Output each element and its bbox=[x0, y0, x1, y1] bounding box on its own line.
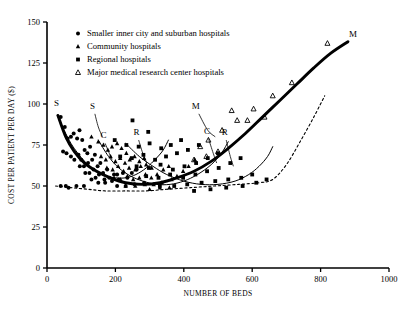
data-point-filled-triangle bbox=[147, 187, 151, 191]
data-point-filled-circle bbox=[92, 168, 96, 172]
data-point-filled-circle bbox=[90, 158, 94, 162]
data-point-filled-triangle bbox=[99, 154, 103, 158]
data-point-filled-square bbox=[200, 181, 204, 185]
data-point-filled-triangle bbox=[127, 166, 131, 170]
curve-label-m-4: M bbox=[192, 101, 200, 111]
data-point-filled-square bbox=[135, 164, 139, 168]
x-tick-label: 200 bbox=[109, 274, 122, 284]
data-point-filled-triangle bbox=[113, 159, 117, 163]
legend-label-0: Smaller inner city and suburban hospital… bbox=[87, 28, 230, 38]
data-point-filled-square bbox=[130, 156, 134, 160]
data-point-filled-circle bbox=[76, 153, 80, 157]
data-point-open-triangle bbox=[229, 108, 234, 113]
data-point-filled-circle bbox=[101, 171, 105, 175]
curve-label-c-5: C bbox=[204, 126, 210, 136]
data-point-filled-circle bbox=[110, 179, 114, 183]
data-point-open-triangle bbox=[270, 93, 275, 98]
data-point-filled-square bbox=[186, 148, 190, 152]
data-point-open-triangle bbox=[235, 118, 240, 123]
legend-marker-filled-square bbox=[76, 58, 80, 62]
data-point-filled-square bbox=[192, 189, 196, 193]
data-point-filled-circle bbox=[89, 177, 93, 181]
curve-label-c-2: C bbox=[100, 130, 106, 140]
data-point-filled-triangle bbox=[186, 164, 190, 168]
x-tick-label: 1000 bbox=[381, 274, 398, 284]
data-point-filled-triangle bbox=[125, 174, 129, 178]
data-point-filled-square bbox=[164, 155, 168, 159]
data-point-filled-square bbox=[254, 181, 258, 185]
data-point-filled-square bbox=[239, 176, 243, 180]
data-point-filled-square bbox=[224, 186, 228, 190]
data-point-filled-triangle bbox=[167, 164, 171, 168]
data-point-filled-triangle bbox=[167, 185, 171, 189]
data-point-filled-circle bbox=[115, 173, 119, 177]
legend-label-3: Major medical research center hospitals bbox=[87, 67, 225, 77]
y-tick-label: 0 bbox=[36, 263, 40, 273]
data-point-filled-square bbox=[169, 143, 173, 147]
data-point-filled-circle bbox=[79, 158, 83, 162]
data-point-filled-circle bbox=[103, 181, 107, 185]
x-tick-label: 400 bbox=[177, 274, 190, 284]
data-point-filled-square bbox=[194, 173, 198, 177]
y-tick-label: 75 bbox=[32, 140, 41, 150]
legend-marker-open-triangle bbox=[76, 70, 81, 75]
legend-marker-filled-triangle bbox=[76, 44, 80, 48]
data-point-filled-square bbox=[159, 146, 163, 150]
data-point-filled-square bbox=[159, 163, 163, 167]
data-point-filled-square bbox=[158, 184, 162, 188]
data-point-filled-triangle bbox=[105, 166, 109, 170]
data-point-filled-square bbox=[181, 176, 185, 180]
data-point-filled-circle bbox=[69, 154, 73, 158]
data-point-filled-square bbox=[153, 158, 157, 162]
data-point-filled-triangle bbox=[123, 161, 127, 165]
hospital-cost-scatter-chart: 025507510012515002004006008001000NUMBER … bbox=[0, 0, 402, 309]
x-axis-title: NUMBER OF BEDS bbox=[184, 289, 253, 298]
data-point-filled-square bbox=[175, 151, 179, 155]
data-point-filled-triangle bbox=[104, 157, 108, 161]
data-point-filled-circle bbox=[59, 184, 63, 188]
data-point-filled-circle bbox=[96, 164, 100, 168]
data-point-filled-square bbox=[213, 179, 217, 183]
data-point-filled-square bbox=[241, 184, 245, 188]
data-point-filled-square bbox=[179, 138, 183, 142]
data-point-filled-circle bbox=[61, 150, 65, 154]
data-point-filled-triangle bbox=[110, 144, 114, 148]
data-point-filled-triangle bbox=[149, 175, 153, 179]
data-point-filled-square bbox=[148, 141, 152, 145]
data-point-filled-square bbox=[157, 176, 161, 180]
data-point-filled-square bbox=[209, 187, 213, 191]
curve-label-r-6: R bbox=[222, 127, 228, 137]
data-point-filled-triangle bbox=[181, 169, 185, 173]
data-point-open-triangle bbox=[289, 80, 294, 85]
data-point-filled-circle bbox=[78, 164, 82, 168]
data-point-filled-square bbox=[146, 130, 150, 134]
data-point-filled-circle bbox=[88, 145, 92, 149]
data-point-filled-square bbox=[239, 156, 243, 160]
y-tick-label: 125 bbox=[27, 58, 40, 68]
y-tick-label: 25 bbox=[32, 222, 41, 232]
legend-marker-filled-circle bbox=[76, 32, 80, 36]
data-point-filled-triangle bbox=[124, 151, 128, 155]
x-tick-label: 600 bbox=[246, 274, 259, 284]
y-tick-label: 50 bbox=[32, 181, 41, 191]
data-point-filled-square bbox=[171, 168, 175, 172]
data-point-filled-triangle bbox=[161, 167, 165, 171]
curve-r bbox=[126, 143, 273, 184]
data-point-filled-circle bbox=[115, 184, 119, 188]
curve-label-s-1: S bbox=[90, 101, 95, 111]
data-point-filled-circle bbox=[87, 171, 91, 175]
data-point-filled-square bbox=[183, 164, 187, 168]
data-point-open-triangle bbox=[325, 41, 330, 46]
legend-label-2: Regional hospitals bbox=[87, 54, 151, 64]
data-point-filled-circle bbox=[85, 151, 89, 155]
y-tick-label: 100 bbox=[27, 99, 40, 109]
chart-container: 025507510012515002004006008001000NUMBER … bbox=[0, 0, 402, 309]
data-point-filled-square bbox=[250, 173, 254, 177]
data-point-filled-square bbox=[113, 138, 117, 142]
curve-label-r-3: R bbox=[134, 127, 140, 137]
data-point-filled-square bbox=[118, 155, 122, 159]
data-point-filled-square bbox=[131, 119, 135, 123]
data-point-filled-circle bbox=[98, 161, 102, 165]
data-point-filled-circle bbox=[72, 158, 76, 162]
data-point-filled-circle bbox=[63, 125, 67, 129]
